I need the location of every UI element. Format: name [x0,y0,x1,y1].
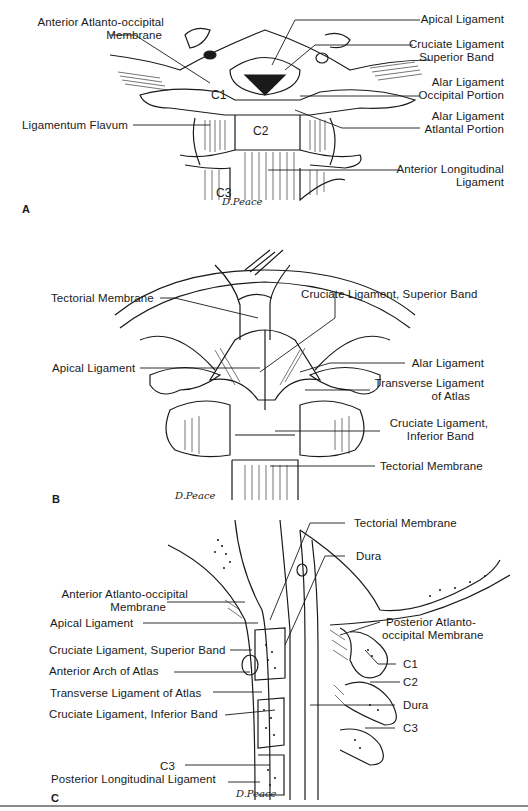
label-dura-upper: Dura [356,550,381,563]
artist-signature: D.Peace [236,788,277,799]
label-dura-lower: Dura [403,699,428,712]
label-transverse-ligament-of-atlas: Transverse Ligament of Atlas [375,377,485,403]
label-transverse-ligament-of-atlas: Transverse Ligament of Atlas [50,687,201,700]
label-c3-anterior: C3 [160,760,175,773]
label-posterior-atlanto-occipital-membrane: Posterior Atlanto- occipital Membrane [382,616,484,642]
artist-signature: D.Peace [175,490,216,501]
label-tectorial-membrane-lower: Tectorial Membrane [380,460,483,473]
label-anterior-longitudinal-ligament: Anterior Longitudinal Ligament [396,163,504,189]
artist-signature: D.Peace [222,196,263,207]
panel-letter-c: C [51,792,59,804]
label-alar-ligament-atlantal-portion: Alar Ligament Atlantal Portion [424,110,504,136]
vertebra-label-c1: C1 [211,88,226,102]
label-ligamentum-flavum: Ligamentum Flavum [22,119,128,132]
sagittal-view-illustration [0,510,528,805]
label-alar-ligament-occipital-portion: Alar Ligament Occipital Portion [419,76,504,102]
label-cruciate-ligament-inferior-band: Cruciate Ligament, Inferior Band [390,417,488,443]
label-c3: C3 [403,722,418,735]
label-cruciate-ligament-superior-band: Cruciate Ligament Superior Band [409,38,504,64]
label-anterior-arch-of-atlas: Anterior Arch of Atlas [49,665,159,678]
label-c1: C1 [403,658,418,671]
panel-a: C1 C2 C3 Anterior Atlanto-occipital Memb… [0,0,528,210]
panel-b: Tectorial Membrane Apical Ligament Cruci… [0,210,528,510]
panel-letter-b: B [52,493,60,505]
label-anterior-atlanto-occipital-membrane: Anterior Atlanto-occipital Membrane [37,16,164,42]
vertebra-label-c2: C2 [253,124,268,138]
label-apical-ligament: Apical Ligament [50,617,133,630]
panel-c: Anterior Atlanto-occipital Membrane Apic… [0,510,528,805]
label-apical-ligament: Apical Ligament [52,362,135,375]
label-cruciate-ligament-superior-band: Cruciate Ligament, Superior Band [49,644,225,657]
label-cruciate-ligament-superior-band: Cruciate Ligament, Superior Band [301,288,477,301]
label-posterior-longitudinal-ligament: Posterior Longitudinal Ligament [51,773,216,786]
label-cruciate-ligament-inferior-band: Cruciate Ligament, Inferior Band [49,708,218,721]
label-anterior-atlanto-occipital-membrane: Anterior Atlanto-occipital Membrane [61,588,188,614]
label-apical-ligament: Apical Ligament [421,13,504,26]
label-tectorial-membrane-upper: Tectorial Membrane [51,292,154,305]
label-alar-ligament: Alar Ligament [412,357,484,370]
bottom-divider [0,805,528,807]
label-c2: C2 [403,676,418,689]
label-tectorial-membrane: Tectorial Membrane [354,517,457,530]
